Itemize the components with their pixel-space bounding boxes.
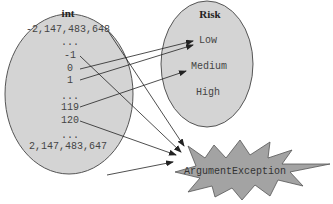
risk-value-medium: Medium bbox=[191, 61, 227, 72]
arrow-max-to-exception bbox=[107, 162, 173, 175]
risk-value-high: High bbox=[196, 87, 220, 98]
int-value-max: 2,147,483,647 bbox=[29, 141, 107, 152]
int-value-119: 119 bbox=[61, 102, 79, 113]
int-ellipsis-2: ... bbox=[61, 91, 79, 102]
int-value-1: 1 bbox=[67, 75, 73, 86]
risk-set-title: Risk bbox=[199, 8, 220, 20]
int-ellipsis-1: ... bbox=[61, 37, 79, 48]
risk-value-low: Low bbox=[199, 35, 217, 46]
int-value-0: 0 bbox=[67, 63, 73, 74]
int-value-120: 120 bbox=[61, 115, 79, 126]
argument-exception-label: ArgumentException bbox=[184, 166, 286, 177]
int-set-title: int bbox=[62, 7, 75, 19]
int-value-min: -2,147,483,648 bbox=[26, 24, 110, 35]
int-value-neg1: -1 bbox=[64, 50, 76, 61]
int-ellipsis-3: ... bbox=[61, 130, 79, 141]
